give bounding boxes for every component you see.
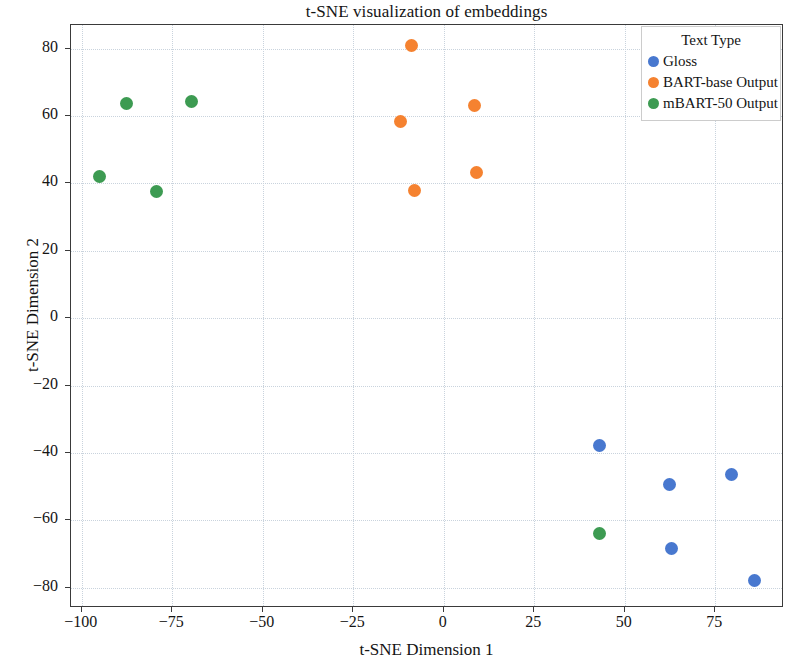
x-tick-mark bbox=[624, 607, 625, 612]
legend-marker-icon bbox=[648, 77, 659, 88]
x-tick-label: 75 bbox=[679, 613, 749, 631]
y-tick-label: 80 bbox=[0, 38, 58, 56]
y-tick-label: −80 bbox=[0, 577, 58, 595]
data-point bbox=[93, 170, 106, 183]
x-axis-label: t-SNE Dimension 1 bbox=[70, 640, 783, 660]
x-tick-mark bbox=[533, 607, 534, 612]
data-point bbox=[120, 97, 133, 110]
y-tick-mark bbox=[65, 385, 70, 386]
gridline-horizontal bbox=[71, 453, 782, 454]
x-tick-label: −100 bbox=[46, 613, 116, 631]
y-tick-mark bbox=[65, 519, 70, 520]
legend-marker-icon bbox=[648, 56, 659, 67]
y-tick-mark bbox=[65, 48, 70, 49]
x-tick-mark bbox=[81, 607, 82, 612]
gridline-vertical bbox=[353, 25, 354, 606]
x-tick-label: −75 bbox=[136, 613, 206, 631]
gridline-horizontal bbox=[71, 318, 782, 319]
y-tick-mark bbox=[65, 250, 70, 251]
legend-item-label: BART-base Output bbox=[663, 73, 778, 92]
legend-item-label: Gloss bbox=[663, 52, 697, 71]
gridline-horizontal bbox=[71, 386, 782, 387]
page-title: t-SNE visualization of embeddings bbox=[70, 2, 783, 22]
legend-title: Text Type bbox=[648, 31, 774, 50]
gridline-horizontal bbox=[71, 183, 782, 184]
y-axis-label: t-SNE Dimension 2 bbox=[23, 145, 43, 465]
y-tick-mark bbox=[65, 452, 70, 453]
y-tick-mark bbox=[65, 317, 70, 318]
data-point bbox=[748, 574, 761, 587]
legend-item[interactable]: BART-base Output bbox=[648, 72, 774, 93]
data-point bbox=[663, 478, 676, 491]
data-point bbox=[665, 542, 678, 555]
y-tick-label: 60 bbox=[0, 105, 58, 123]
x-tick-mark bbox=[443, 607, 444, 612]
y-tick-mark bbox=[65, 115, 70, 116]
data-point bbox=[408, 184, 421, 197]
gridline-horizontal bbox=[71, 251, 782, 252]
x-tick-label: 25 bbox=[498, 613, 568, 631]
legend-item[interactable]: Gloss bbox=[648, 51, 774, 72]
gridline-horizontal bbox=[71, 520, 782, 521]
legend-marker-icon bbox=[648, 98, 659, 109]
y-tick-mark bbox=[65, 587, 70, 588]
gridline-vertical bbox=[444, 25, 445, 606]
gridline-horizontal bbox=[71, 588, 782, 589]
x-tick-mark bbox=[352, 607, 353, 612]
x-tick-label: −25 bbox=[317, 613, 387, 631]
x-tick-label: 50 bbox=[589, 613, 659, 631]
data-point bbox=[468, 99, 481, 112]
legend-rows: GlossBART-base OutputmBART-50 Output bbox=[648, 51, 774, 114]
data-point bbox=[470, 166, 483, 179]
gridline-vertical bbox=[82, 25, 83, 606]
gridline-vertical bbox=[625, 25, 626, 606]
y-tick-mark bbox=[65, 182, 70, 183]
x-tick-label: −50 bbox=[227, 613, 297, 631]
x-tick-mark bbox=[171, 607, 172, 612]
data-point bbox=[725, 468, 738, 481]
data-point bbox=[593, 439, 606, 452]
data-point bbox=[185, 95, 198, 108]
x-tick-label: 0 bbox=[408, 613, 478, 631]
tsne-scatter-figure: t-SNE visualization of embeddings −100−7… bbox=[0, 0, 791, 670]
gridline-vertical bbox=[534, 25, 535, 606]
data-point bbox=[150, 185, 163, 198]
data-point bbox=[405, 39, 418, 52]
gridline-vertical bbox=[263, 25, 264, 606]
y-tick-label: −60 bbox=[0, 509, 58, 527]
legend: Text Type GlossBART-base OutputmBART-50 … bbox=[641, 26, 781, 121]
gridline-vertical bbox=[172, 25, 173, 606]
legend-item-label: mBART-50 Output bbox=[663, 94, 778, 113]
data-point bbox=[593, 527, 606, 540]
data-point bbox=[394, 115, 407, 128]
x-tick-mark bbox=[262, 607, 263, 612]
legend-item[interactable]: mBART-50 Output bbox=[648, 93, 774, 114]
x-tick-mark bbox=[714, 607, 715, 612]
